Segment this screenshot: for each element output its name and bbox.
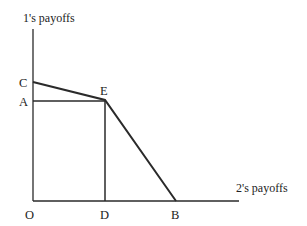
y-axis-label: 1's payoffs — [23, 11, 75, 25]
point-label-d: D — [100, 208, 109, 222]
point-label-e: E — [100, 84, 108, 98]
point-label-a: A — [19, 95, 28, 109]
point-label-c: C — [19, 76, 27, 90]
point-label-b: B — [171, 208, 179, 222]
x-axis-label: 2's payoffs — [236, 181, 288, 195]
point-label-o: O — [25, 208, 34, 222]
payoff-diagram: 1's payoffs 2's payoffs C A E O D B — [0, 0, 307, 226]
